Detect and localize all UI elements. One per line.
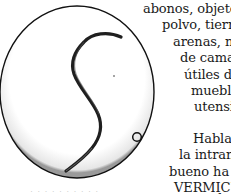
- worm-illustration: [0, 0, 160, 194]
- body-text-line: de cama,: [180, 51, 231, 65]
- body-text-line: VERMICUL: [174, 181, 231, 194]
- document-page: abonos, objetos, polvo, tierra arenas, n…: [0, 0, 231, 194]
- body-text-line: Habla: [193, 132, 231, 146]
- body-text-line: la intranc: [179, 148, 231, 162]
- body-text-line: abonos, objetos,: [143, 2, 231, 16]
- lens-circle-icon: [0, 0, 160, 194]
- body-text-line: utensilio: [194, 100, 231, 114]
- body-text-line: d: [214, 192, 222, 194]
- figure-caption: · · · · · · · · · ·: [30, 186, 99, 194]
- body-text-line: útiles de: [184, 68, 231, 82]
- body-text-line: bueno ha: [169, 165, 229, 179]
- body-text-line: polvo, tierra: [162, 18, 231, 32]
- body-text-line: muebles,: [191, 84, 231, 98]
- body-text-line: arenas, n: [173, 35, 231, 49]
